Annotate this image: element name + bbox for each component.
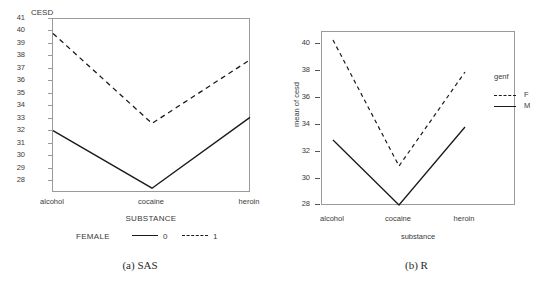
sas-ytick-30: 30	[0, 151, 25, 159]
sas-ytick-40: 40	[0, 26, 25, 34]
sas-legend-entry-1[interactable]: 1	[182, 232, 217, 242]
r-data-lines	[322, 32, 516, 206]
sas-xtick-alcohol: alcohol	[22, 197, 82, 206]
sas-legend: FEMALE 0 1	[52, 232, 250, 244]
sas-legend-entry-0[interactable]: 0	[132, 232, 167, 242]
sas-x-axis-title: SUBSTANCE	[52, 214, 250, 223]
figure-two-panel-interaction-plots: CESD 41 40 39 38 37 36 35 34 33 32 31 30…	[0, 0, 553, 286]
r-ytick-34: 34	[288, 120, 310, 128]
dashed-line-swatch-icon	[494, 95, 516, 96]
sas-series-female-1-dashed	[53, 33, 250, 123]
solid-line-swatch-icon	[132, 235, 158, 236]
sas-y-axis-title: CESD	[31, 8, 53, 17]
panel-r: mean of cesd 40 38 36 34 32 30 28 genf	[280, 0, 553, 286]
sas-series-female-0-solid	[53, 117, 250, 188]
sas-ytick-35: 35	[0, 89, 25, 97]
panel-sas: CESD 41 40 39 38 37 36 35 34 33 32 31 30…	[0, 0, 280, 286]
r-ytick-28: 28	[288, 200, 310, 208]
r-tick-mark-32	[315, 151, 320, 152]
sas-ytick-31: 31	[0, 139, 25, 147]
r-legend-entry-F[interactable]: F	[494, 91, 552, 101]
sas-ytick-37: 37	[0, 64, 25, 72]
sas-ytick-38: 38	[0, 51, 25, 59]
sas-legend-title: FEMALE	[76, 232, 110, 242]
r-xtick-alcohol: alcohol	[302, 214, 362, 223]
r-legend-label-M: M	[524, 101, 530, 110]
r-series-genf-M-solid	[333, 127, 465, 205]
r-ytick-30: 30	[288, 174, 310, 182]
r-ytick-40: 40	[288, 39, 310, 47]
caption-panel-b: (b) R	[280, 259, 553, 272]
sas-ytick-29: 29	[0, 164, 25, 172]
sas-ytick-32: 32	[0, 126, 25, 134]
r-plot-area: genf F M	[321, 31, 515, 205]
r-legend-title: genf	[494, 72, 509, 81]
sas-legend-label-1: 1	[213, 232, 217, 241]
r-tick-mark-28	[315, 204, 320, 205]
sas-xtick-cocaine: cocaine	[121, 197, 181, 206]
r-xtick-heroin: heroin	[434, 214, 494, 223]
r-legend-label-F: F	[524, 90, 529, 99]
r-tick-mark-40	[315, 43, 320, 44]
sas-ytick-33: 33	[0, 114, 25, 122]
r-ytick-36: 36	[288, 93, 310, 101]
r-xtick-cocaine: cocaine	[368, 214, 428, 223]
caption-panel-a: (a) SAS	[0, 259, 280, 272]
sas-ytick-34: 34	[0, 101, 25, 109]
r-tick-mark-36	[315, 97, 320, 98]
r-legend-entry-M[interactable]: M	[494, 102, 552, 112]
solid-line-swatch-icon	[494, 106, 516, 107]
sas-ytick-28: 28	[0, 176, 25, 184]
r-tick-mark-38	[315, 70, 320, 71]
r-tick-mark-34	[315, 124, 320, 125]
r-x-axis-title: substance	[321, 232, 515, 241]
r-series-genf-F-dashed	[333, 40, 465, 166]
r-ytick-32: 32	[288, 147, 310, 155]
sas-legend-label-0: 0	[163, 232, 167, 241]
sas-xtick-heroin: heroin	[219, 197, 279, 206]
sas-data-lines	[53, 19, 251, 193]
sas-plot-area	[52, 18, 250, 192]
sas-ytick-39: 39	[0, 39, 25, 47]
r-ytick-38: 38	[288, 66, 310, 74]
sas-ytick-36: 36	[0, 76, 25, 84]
r-tick-mark-30	[315, 178, 320, 179]
r-y-axis-title: mean of cesd	[292, 65, 301, 145]
dashed-line-swatch-icon	[182, 235, 208, 236]
sas-ytick-41: 41	[0, 14, 25, 22]
